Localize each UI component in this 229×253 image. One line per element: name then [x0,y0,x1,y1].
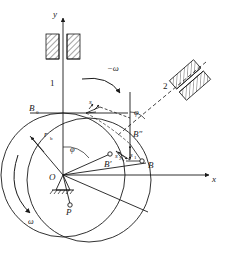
cam-mechanism-diagram: y x 1 2 −ω ω r b φ φ B 0 B′ B″ B P O s s… [0,0,229,253]
base-radius-sub: b [50,136,53,141]
link1-label: 1 [50,78,55,88]
omega-negative-label: −ω [107,63,119,73]
link2-label: 2 [163,81,168,91]
point-p-label: P [65,207,72,217]
omega-negative-arc [82,78,120,93]
omega-label: ω [28,217,34,226]
point-b-double-prime-label: B″ [133,129,142,139]
s-label: s [89,98,92,106]
point-b-prime-label: B′ [104,159,112,169]
diagram-canvas: y x 1 2 −ω ω r b φ φ B 0 B′ B″ B P O s s… [0,0,229,253]
x-axis-label: x [211,174,216,184]
phi-origin-arc [63,147,89,158]
slanted-guide-block [169,60,210,101]
s2-label: s [115,152,118,160]
s-dimension-group [86,104,130,118]
point-b-label: B [148,160,154,170]
origin-label: O [49,172,56,182]
point-b0-label: B [29,103,35,113]
s1-label: s [130,151,133,159]
joint-b-prime [108,152,112,156]
omega-arc [14,155,30,213]
phi-upper-label: φ [134,107,139,117]
link2-axis-dashed [118,62,206,135]
s1-sub: 1 [134,155,137,160]
phi-origin-label: φ [70,144,75,154]
point-b0-sub: 0 [36,110,39,115]
joint-b [140,159,144,163]
radius-o-lower-right [63,175,148,212]
y-axis-label: y [52,9,57,19]
